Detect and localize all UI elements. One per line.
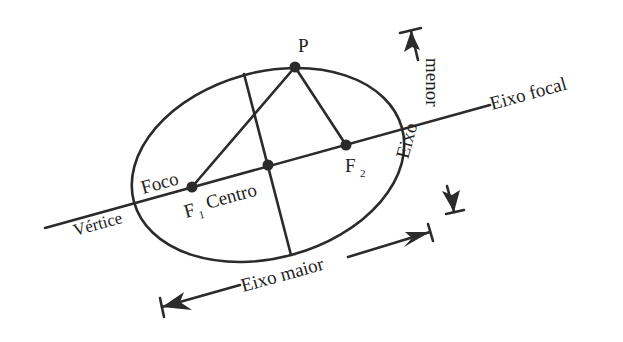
arrow-down-icon: [442, 190, 460, 212]
label-major-axis: Eixo maior: [238, 253, 326, 296]
label-f2-letter: F: [345, 155, 356, 176]
arrow-up-icon: [404, 31, 420, 52]
point-f2: [341, 140, 352, 151]
label-minor-word1: menor: [422, 58, 443, 107]
label-f1: F 1: [181, 199, 205, 222]
label-centro: Centro: [203, 179, 258, 213]
segment-p-f1: [192, 67, 295, 187]
segment-p-f2: [295, 67, 346, 145]
ellipse-diagram: P Eixo focal menor Eixo Foco F 1 Centro …: [0, 0, 623, 342]
label-f2-sub: 2: [360, 167, 366, 179]
label-f1-letter: F: [181, 199, 197, 222]
label-f2: F 2: [345, 155, 366, 179]
label-p: P: [298, 35, 309, 56]
label-minor-word2: Eixo: [392, 120, 422, 160]
label-focal-axis: Eixo focal: [487, 73, 568, 114]
point-p: [290, 62, 301, 73]
point-f1: [187, 182, 198, 193]
label-f1-sub: 1: [197, 208, 206, 221]
point-centro: [263, 160, 274, 171]
